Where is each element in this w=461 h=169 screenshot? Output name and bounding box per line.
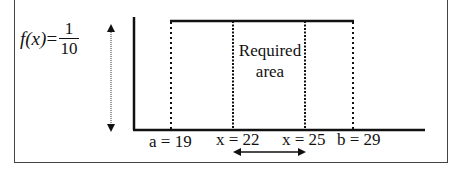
equals-sign: = — [46, 28, 57, 50]
required-area-label: Required area — [236, 40, 304, 82]
fraction: 1 10 — [59, 20, 79, 57]
x-label-a: a = 19 — [149, 133, 192, 150]
required-area-line2: area — [236, 61, 304, 82]
arrow-up-icon — [107, 24, 115, 32]
function-name: f(x) — [20, 28, 46, 50]
arrow-down-icon — [107, 124, 115, 132]
required-area-line1: Required — [236, 40, 304, 61]
x-label-25: x = 25 — [282, 131, 326, 148]
fraction-numerator: 1 — [65, 20, 74, 37]
x-label-22: x = 22 — [216, 131, 260, 148]
arrow-left-icon — [233, 148, 241, 156]
arrow-right-icon — [298, 148, 306, 156]
density-label: f(x) = 1 10 — [20, 20, 79, 57]
fraction-denominator: 10 — [61, 40, 78, 57]
x-label-b: b = 29 — [337, 131, 381, 148]
